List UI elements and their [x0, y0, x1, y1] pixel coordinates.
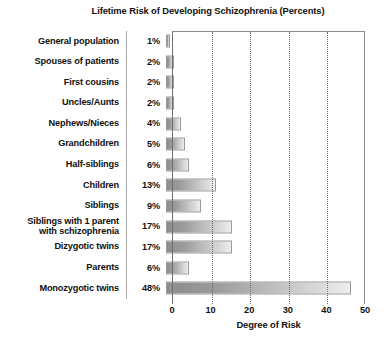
- chart-row: Siblings with 1 parentwith schizophrenia…: [0, 216, 388, 237]
- x-tick-label: 50: [360, 305, 370, 315]
- bar: [166, 35, 170, 48]
- category-label: Parents: [0, 263, 126, 273]
- chart-row: First cousins2%: [0, 72, 388, 93]
- x-tick-label: 40: [321, 305, 331, 315]
- bar-cell: [166, 278, 388, 299]
- bar-cell: [166, 113, 388, 134]
- x-tick-label: 30: [283, 305, 293, 315]
- category-label: Siblings: [0, 201, 126, 211]
- category-label: First cousins: [0, 78, 126, 88]
- bar: [166, 76, 174, 89]
- bar-cell: [166, 175, 388, 196]
- bar: [166, 138, 185, 151]
- value-percent-label: 5%: [126, 134, 166, 155]
- chart-row: Children13%: [0, 175, 388, 196]
- chart-row: General population1%: [0, 31, 388, 52]
- chart-row: Spouses of patients2%: [0, 52, 388, 73]
- category-label: Grandchildren: [0, 139, 126, 149]
- bar: [166, 200, 201, 213]
- category-label: Half-siblings: [0, 160, 126, 170]
- value-percent-label: 6%: [126, 155, 166, 176]
- x-tick-label: 20: [244, 305, 254, 315]
- chart-row: Dizygotic twins17%: [0, 237, 388, 258]
- bar: [166, 179, 216, 192]
- chart-row: Nephews/Nieces4%: [0, 113, 388, 134]
- value-percent-label: 48%: [126, 278, 166, 299]
- bar: [166, 158, 189, 171]
- x-axis-ticks: 01020304050: [172, 304, 366, 320]
- bar: [166, 241, 232, 254]
- value-percent-label: 2%: [126, 93, 166, 114]
- bar-cell: [166, 93, 388, 114]
- category-label: Children: [0, 181, 126, 191]
- bar-cell: [166, 52, 388, 73]
- chart-row: Monozygotic twins48%: [0, 278, 388, 299]
- bar: [166, 117, 181, 130]
- chart-row: Half-siblings6%: [0, 155, 388, 176]
- chart-row: Grandchildren5%: [0, 134, 388, 155]
- category-label: Monozygotic twins: [0, 284, 126, 294]
- value-percent-label: 2%: [126, 72, 166, 93]
- chart-row: Uncles/Aunts2%: [0, 93, 388, 114]
- x-tick-label: 0: [169, 305, 174, 315]
- category-label: Siblings with 1 parentwith schizophrenia: [0, 217, 126, 236]
- chart-row: Siblings9%: [0, 196, 388, 217]
- value-percent-label: 2%: [126, 52, 166, 73]
- chart-title: Lifetime Risk of Developing Schizophreni…: [0, 5, 388, 16]
- bar-cell: [166, 258, 388, 279]
- category-label: Spouses of patients: [0, 57, 126, 67]
- value-percent-label: 9%: [126, 196, 166, 217]
- category-label-line1: Siblings with 1 parent: [27, 216, 119, 226]
- bar-cell: [166, 196, 388, 217]
- bar: [166, 261, 189, 274]
- bar-rows: General population1%Spouses of patients2…: [0, 31, 388, 304]
- value-percent-label: 17%: [126, 237, 166, 258]
- bar-cell: [166, 134, 388, 155]
- bar: [166, 55, 174, 68]
- value-percent-label: 1%: [126, 31, 166, 52]
- value-percent-label: 6%: [126, 258, 166, 279]
- bar-cell: [166, 72, 388, 93]
- bar-cell: [166, 155, 388, 176]
- category-label: Uncles/Aunts: [0, 98, 126, 108]
- category-label: Dizygotic twins: [0, 242, 126, 252]
- bar: [166, 220, 232, 233]
- bar-cell: [166, 31, 388, 52]
- chart-plot-body: General population1%Spouses of patients2…: [0, 31, 388, 304]
- bar: [166, 282, 351, 295]
- bar-cell: [166, 237, 388, 258]
- x-tick-label: 10: [205, 305, 215, 315]
- bar-cell: [166, 216, 388, 237]
- category-label: General population: [0, 37, 126, 47]
- value-percent-label: 4%: [126, 113, 166, 134]
- value-percent-label: 17%: [126, 216, 166, 237]
- chart-row: Parents6%: [0, 258, 388, 279]
- schizophrenia-risk-chart: Lifetime Risk of Developing Schizophreni…: [0, 0, 388, 344]
- value-percent-label: 13%: [126, 175, 166, 196]
- x-axis-title: Degree of Risk: [172, 319, 365, 330]
- category-label-line2: with schizophrenia: [0, 227, 119, 237]
- category-label: Nephews/Nieces: [0, 119, 126, 129]
- bar: [166, 97, 174, 110]
